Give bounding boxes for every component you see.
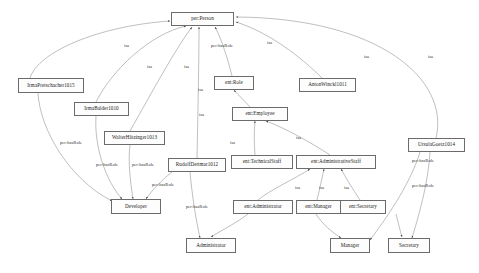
node-walter-haetzinger[interactable]: WalterHätzinger1013 <box>104 131 165 145</box>
edge-label-isa-adminstaff: isa <box>296 136 301 141</box>
ontology-graph-canvas: per:Person ent:Role ent:Employee ent:Tec… <box>0 0 479 273</box>
node-ent-manager[interactable]: ent:Manager <box>296 200 341 214</box>
edge-label-isa-employee: isa <box>199 113 204 118</box>
node-ent-administrativestaff[interactable]: ent:AdministrativeStaff <box>296 155 376 169</box>
edge-label-isa-administrator: isa <box>295 186 300 191</box>
edge-label-per-hasrole-top: per:hasRole <box>211 44 233 49</box>
node-ent-technicalstaff[interactable]: ent:TechnicalStaff <box>231 155 293 169</box>
node-rudolf-dettmar[interactable]: RudolfDettmar1012 <box>168 158 226 172</box>
edge-label-isa-manager: isa <box>319 186 324 191</box>
edge-label-per-hasrole-r2: per:hasRole <box>412 184 434 189</box>
edge-label-isa-n6: isa <box>428 55 433 60</box>
node-ursula-goetz[interactable]: UrsulaGoetz1014 <box>408 138 465 152</box>
edge-label-per-hasrole-2: per:hasRole <box>96 163 118 168</box>
edge-label-isa-n2: isa <box>147 65 152 70</box>
node-ent-employee[interactable]: ent:Employee <box>232 107 288 121</box>
edge-ent-administrator-instance <box>211 214 248 237</box>
node-irma-pretschacher[interactable]: IrmaPretschacher1015 <box>18 78 84 93</box>
edge-label-isa-n1: isa <box>124 44 129 49</box>
node-manager[interactable]: Manager <box>330 238 370 253</box>
edge-administrator-adminstaff <box>258 169 310 200</box>
edge-label-isa-n3: isa <box>184 65 189 70</box>
node-secretary[interactable]: Secretary <box>388 238 430 253</box>
edge-ursula-manager <box>370 152 420 240</box>
node-ent-administrator[interactable]: ent:Administrator <box>233 200 293 214</box>
edge-irma-balder-person <box>96 26 186 102</box>
edge-label-isa-n4: isa <box>198 88 203 93</box>
edge-label-per-hasrole-r1: per:hasRole <box>412 159 434 164</box>
edge-ursula-secretary <box>412 152 430 238</box>
edge-rudolf-person <box>197 27 199 158</box>
edge-label-isa-role: isa <box>267 41 272 46</box>
edge-label-per-hasrole-mid: per:hasRole <box>186 205 208 210</box>
node-administrator[interactable]: Administrator <box>186 238 236 253</box>
edge-label-isa-n5: isa <box>364 55 369 60</box>
edge-ent-manager-instance <box>316 214 341 238</box>
node-ent-secretary[interactable]: ent:Secretary <box>340 200 386 214</box>
node-irma-balder[interactable]: IrmaBalder1010 <box>74 102 129 116</box>
edge-role-person <box>215 27 232 76</box>
edge-layer <box>0 0 479 273</box>
edge-walter-developer <box>129 145 133 199</box>
edge-ent-secretary-instance <box>396 214 402 237</box>
edge-anton-person <box>236 22 322 78</box>
node-per-person[interactable]: per:Person <box>171 12 234 26</box>
edge-technical-employee <box>254 121 255 155</box>
edge-label-isa-secretary: isa <box>344 186 349 191</box>
edge-employee-role <box>234 90 250 107</box>
node-developer[interactable]: Developer <box>111 199 161 214</box>
node-ent-role[interactable]: ent:Role <box>214 76 254 90</box>
edge-label-per-hasrole-1: per:hasRole <box>60 141 82 146</box>
edge-label-isa-technical: isa <box>230 141 235 146</box>
node-anton-winckl[interactable]: AntonWinckl1011 <box>299 78 356 92</box>
edge-irma-balder-developer <box>96 116 122 199</box>
edge-walter-person <box>130 27 192 131</box>
edge-label-per-hasrole-4: per:hasRole <box>152 183 174 188</box>
edge-label-per-hasrole-3: per:hasRole <box>132 163 154 168</box>
